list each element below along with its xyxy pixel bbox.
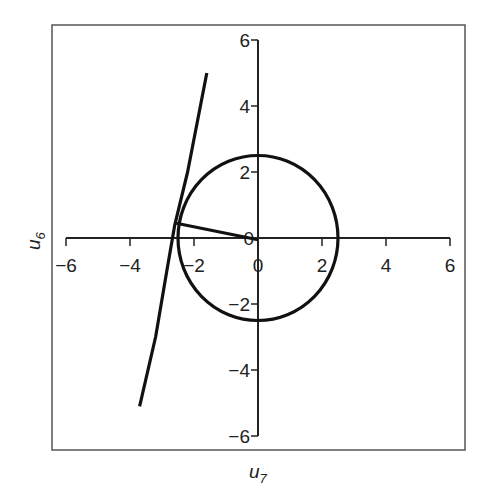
- x-tick-label: 2: [317, 255, 328, 276]
- x-tick-label: −6: [55, 255, 77, 276]
- y-tick-label: −2: [228, 294, 250, 315]
- x-tick-label: −4: [119, 255, 141, 276]
- y-tick-label: 2: [239, 162, 250, 183]
- x-tick-label: 4: [381, 255, 392, 276]
- x-tick-label: 6: [445, 255, 456, 276]
- data-series: [140, 73, 338, 406]
- y-tick-label: −6: [228, 426, 250, 447]
- tangent-curve-series: [140, 73, 207, 406]
- chart-canvas: −6−4−202466420−2−4−6 u7 u6: [0, 0, 486, 497]
- y-tick-label: 4: [239, 96, 250, 117]
- x-axis-label: u7: [249, 461, 268, 486]
- y-axis-label: u6: [23, 231, 48, 250]
- y-tick-label: 6: [239, 30, 250, 51]
- y-tick-label: −4: [228, 360, 250, 381]
- x-tick-label: 0: [253, 255, 264, 276]
